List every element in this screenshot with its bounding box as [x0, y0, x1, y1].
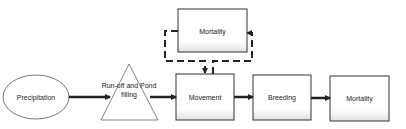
- precipitation-label: Precipitation: [3, 93, 69, 102]
- runoff-label-line2: filling: [96, 90, 162, 99]
- mortality-loop-label: Mortality: [178, 27, 247, 36]
- mortality-end-label: Mortality: [330, 94, 389, 103]
- flowchart-canvas: [0, 0, 406, 129]
- breeding-label: Breeding: [253, 93, 311, 102]
- movement-label: Movement: [176, 93, 234, 102]
- runoff-label-line1: Run-off and Pond: [96, 81, 162, 90]
